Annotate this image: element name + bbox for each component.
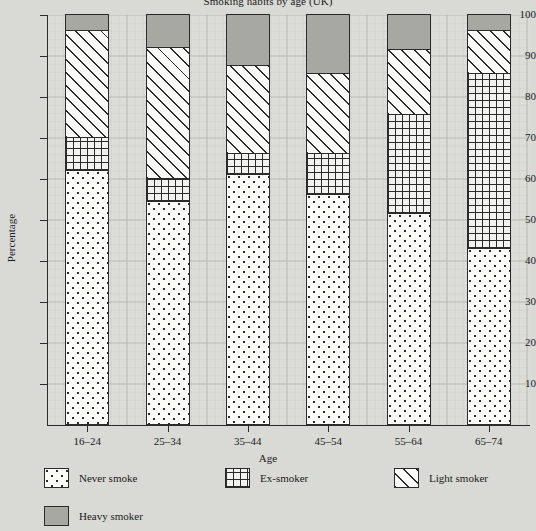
bar-segment[interactable] [226, 153, 270, 175]
y-axis-label: Percentage [5, 203, 17, 273]
y-axis-tick [40, 261, 47, 262]
bar-segment[interactable] [306, 153, 350, 195]
bar-segment[interactable] [306, 14, 350, 74]
legend-item-label: Ex-smoker [260, 472, 308, 484]
legend-item[interactable]: Ex-smoker [225, 468, 308, 488]
x-axis-tick [168, 426, 169, 432]
x-axis-line [47, 425, 530, 426]
y-axis-tick [40, 343, 47, 344]
y-axis-line [47, 15, 48, 426]
bar-segment[interactable] [65, 170, 109, 425]
x-axis-tick [489, 426, 490, 432]
x-axis-tick-label: 45–54 [314, 435, 342, 447]
bar-segment[interactable] [65, 14, 109, 31]
bar-segment[interactable] [306, 73, 350, 154]
y-axis-tick-label: 30 [500, 296, 536, 307]
legend-item[interactable]: Heavy smoker [44, 506, 143, 526]
legend-item-label: Light smoker [429, 472, 488, 484]
x-axis-tick [328, 426, 329, 432]
y-axis-tick [40, 56, 47, 57]
solid-grey-swatch [44, 506, 69, 526]
x-axis-tick-label: 55–64 [395, 435, 423, 447]
bar-segment[interactable] [65, 137, 109, 171]
y-axis-tick-label: 100 [500, 9, 536, 20]
y-axis-tick-label: 50 [500, 214, 536, 225]
bar-segment[interactable] [65, 30, 109, 138]
y-axis-tick [40, 15, 47, 16]
bar-group[interactable] [226, 15, 270, 425]
bar-segment[interactable] [146, 201, 190, 425]
bar-segment[interactable] [306, 194, 350, 425]
x-axis-tick-label: 16–24 [73, 435, 101, 447]
x-axis-tick [409, 426, 410, 432]
bar-group[interactable] [306, 15, 350, 425]
legend-item-label: Heavy smoker [79, 510, 143, 522]
bar-segment[interactable] [226, 14, 270, 66]
bar-group[interactable] [65, 15, 109, 425]
plot-area [47, 15, 529, 425]
chart-legend: Never smokeEx-smokerLight smokerHeavy sm… [0, 468, 536, 531]
bar-segment[interactable] [226, 174, 270, 425]
chart-title: Smoking habits by age (UK) [0, 0, 536, 7]
x-axis-tick-label: 25–34 [154, 435, 182, 447]
y-axis-tick-label: 20 [500, 337, 536, 348]
bar-segment[interactable] [146, 47, 190, 179]
bar-segment[interactable] [146, 14, 190, 48]
y-axis-tick-label: 10 [500, 378, 536, 389]
bar-segment[interactable] [226, 65, 270, 154]
y-axis-tick-label: 40 [500, 255, 536, 266]
x-axis-tick [248, 426, 249, 432]
x-axis-label: Age [0, 452, 536, 464]
bar-segment[interactable] [146, 178, 190, 202]
cross-hatch-swatch [225, 468, 250, 488]
legend-item[interactable]: Light smoker [394, 468, 488, 488]
y-axis-tick-label: 90 [500, 50, 536, 61]
legend-item-label: Never smoke [79, 472, 137, 484]
grid-layer [47, 15, 529, 425]
bar-group[interactable] [146, 15, 190, 425]
x-axis-tick-label: 65–74 [475, 435, 503, 447]
chart-root: Smoking habits by age (UK) 1020304050607… [0, 0, 536, 531]
y-axis-tick [40, 384, 47, 385]
y-axis-tick-label: 80 [500, 91, 536, 102]
diagonal-hatch-swatch [394, 468, 419, 488]
y-axis-tick [40, 97, 47, 98]
y-axis-tick [40, 220, 47, 221]
dots-swatch [44, 468, 69, 488]
y-axis-tick [40, 302, 47, 303]
x-axis-tick [87, 426, 88, 432]
bar-group[interactable] [387, 15, 431, 425]
y-axis-tick [40, 138, 47, 139]
bar-segment[interactable] [387, 213, 431, 425]
y-axis-tick-label: 70 [500, 132, 536, 143]
bar-segment[interactable] [387, 49, 431, 116]
y-axis-tick-label: 60 [500, 173, 536, 184]
y-axis-tick [40, 179, 47, 180]
legend-item[interactable]: Never smoke [44, 468, 137, 488]
bar-segment[interactable] [387, 14, 431, 50]
x-axis-tick-label: 35–44 [234, 435, 262, 447]
bar-segment[interactable] [387, 114, 431, 213]
